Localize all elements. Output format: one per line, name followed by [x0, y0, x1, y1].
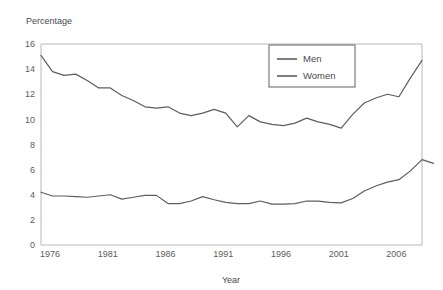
legend-label-women: Women: [303, 70, 336, 81]
x-axis-tick-labels: 1976198119861991199620012006: [40, 249, 406, 259]
y-tick-label: 6: [30, 165, 35, 175]
data-series-group: [41, 55, 434, 204]
x-tick-label: 1986: [155, 249, 175, 259]
legend-label-men: Men: [303, 53, 321, 64]
x-axis-title: Year: [222, 275, 240, 285]
x-tick-label: 2006: [386, 249, 406, 259]
y-axis-tick-labels: 0246810121416: [25, 39, 35, 250]
y-tick-label: 12: [25, 89, 35, 99]
x-tick-label: 1981: [98, 249, 118, 259]
x-tick-label: 1976: [40, 249, 60, 259]
y-tick-label: 16: [25, 39, 35, 49]
y-tick-label: 2: [30, 215, 35, 225]
x-tick-label: 1991: [213, 249, 233, 259]
line-chart: Percentage Year 0246810121416 1976198119…: [0, 0, 443, 290]
chart-canvas: Percentage Year 0246810121416 1976198119…: [0, 0, 443, 290]
x-tick-label: 2001: [329, 249, 349, 259]
y-tick-label: 10: [25, 115, 35, 125]
y-tick-label: 4: [30, 190, 35, 200]
y-axis-title: Percentage: [26, 16, 72, 26]
chart-legend: MenWomen: [269, 45, 355, 87]
plot-frame: [41, 44, 422, 245]
series-line-men: [41, 55, 422, 128]
series-line-women: [41, 160, 434, 205]
y-tick-label: 0: [30, 240, 35, 250]
x-tick-label: 1996: [271, 249, 291, 259]
y-tick-label: 14: [25, 64, 35, 74]
y-tick-label: 8: [30, 140, 35, 150]
